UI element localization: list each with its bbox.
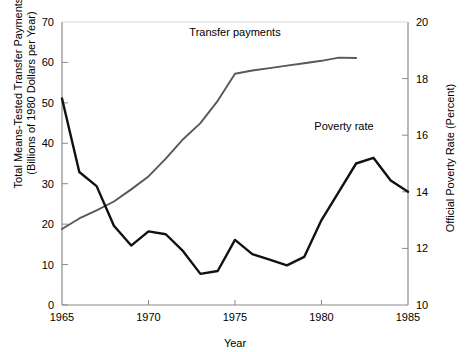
transfer-payments-label: Transfer payments <box>189 26 281 38</box>
chart-background <box>0 0 470 352</box>
y-tick-label: 40 <box>42 137 54 149</box>
y2-tick-label: 18 <box>416 73 428 85</box>
y-axis-right-title-text: Official Poverty Rate (Percent) <box>444 84 457 232</box>
y-tick-label: 30 <box>42 178 54 190</box>
y2-tick-label: 20 <box>416 16 428 28</box>
chart-container: 19651970197519801985 010203040506070 101… <box>0 0 470 352</box>
y-tick-label: 70 <box>42 16 54 28</box>
y-tick-label: 20 <box>42 218 54 230</box>
x-tick-label: 1970 <box>136 311 160 323</box>
y-tick-label: 10 <box>42 259 54 271</box>
y2-tick-label: 14 <box>416 186 428 198</box>
x-tick-label: 1975 <box>223 311 247 323</box>
y-tick-label: 0 <box>48 299 54 311</box>
y2-tick-label: 10 <box>416 299 428 311</box>
y-tick-label: 60 <box>42 56 54 68</box>
y-axis-left-title-line1: Total Means-Tested Transfer Payments <box>12 0 25 188</box>
y-tick-label: 50 <box>42 97 54 109</box>
y-axis-right-title: Official Poverty Rate (Percent) <box>442 38 458 278</box>
x-tick-label: 1985 <box>396 311 420 323</box>
x-tick-label: 1965 <box>50 311 74 323</box>
y2-tick-label: 16 <box>416 129 428 141</box>
y-axis-left-title: Total Means-Tested Transfer Payments(Bil… <box>10 0 40 223</box>
y-axis-left-title-text: Total Means-Tested Transfer Payments(Bil… <box>12 0 38 188</box>
x-axis-title: Year <box>224 337 247 349</box>
x-tick-label: 1980 <box>309 311 333 323</box>
y2-tick-label: 12 <box>416 242 428 254</box>
poverty-rate-label: Poverty rate <box>314 120 373 132</box>
dual-axis-line-chart: 19651970197519801985 010203040506070 101… <box>0 0 470 352</box>
y-axis-left-title-line2: (Billions of 1980 Dollars per Year) <box>25 0 38 188</box>
